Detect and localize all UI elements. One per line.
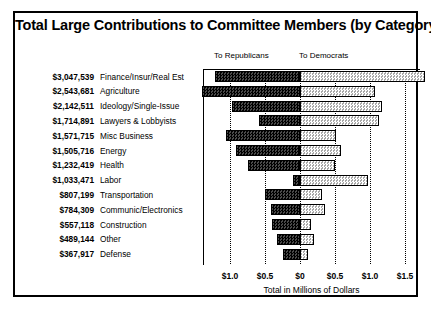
- bar-democrat: [300, 204, 325, 215]
- x-tick-label: $0.5: [327, 271, 344, 281]
- x-tick-label: $0: [295, 271, 304, 281]
- row-category-label: Agriculture: [100, 86, 140, 96]
- row-amount: $1,571,715: [28, 131, 94, 141]
- row-amount: $807,199: [28, 190, 94, 200]
- bar-republican: [265, 189, 300, 200]
- bar-republican: [202, 86, 300, 97]
- bar-democrat: [300, 175, 368, 186]
- x-tick-label: $1.0: [362, 271, 379, 281]
- row-amount: $1,714,891: [28, 116, 94, 126]
- gridline-4: [370, 69, 371, 265]
- row-amount: $1,033,471: [28, 175, 94, 185]
- bar-democrat: [300, 189, 322, 200]
- chart-frame: Total Large Contributions to Committee M…: [13, 11, 418, 297]
- bar-republican: [293, 175, 300, 186]
- bar-democrat: [300, 249, 308, 260]
- row-amount: $557,118: [28, 220, 94, 230]
- row-amount: $367,917: [28, 249, 94, 259]
- row-amount: $2,142,511: [28, 101, 94, 111]
- bar-democrat: [300, 71, 425, 82]
- bar-republican: [259, 115, 300, 126]
- bar-republican: [232, 101, 300, 112]
- plot-area: [190, 58, 420, 265]
- row-amount: $2,543,681: [28, 86, 94, 96]
- bar-democrat: [300, 115, 379, 126]
- bar-democrat: [300, 145, 341, 156]
- bar-republican: [283, 249, 301, 260]
- bar-republican: [271, 204, 300, 215]
- x-axis-title: Total in Millions of Dollars: [203, 285, 420, 295]
- row-amount: $784,309: [28, 205, 94, 215]
- row-amount: $1,505,716: [28, 146, 94, 156]
- row-category-label: Defense: [100, 249, 131, 259]
- row-category-label: Labor: [100, 175, 121, 185]
- row-category-label: Misc Business: [100, 131, 153, 141]
- row-category-label: Construction: [100, 220, 147, 230]
- bar-democrat: [300, 101, 382, 112]
- row-category-label: Energy: [100, 146, 126, 156]
- bar-democrat: [300, 160, 335, 171]
- row-category-label: Other: [100, 234, 121, 244]
- gridline-5: [405, 69, 406, 265]
- bar-republican: [236, 145, 300, 156]
- x-axis: $1.0$0.5$0$0.5$1.0$1.5 Total in Millions…: [190, 271, 425, 301]
- bar-democrat: [300, 219, 311, 230]
- row-category-label: Communic/Electronics: [100, 205, 183, 215]
- bar-republican: [226, 130, 300, 141]
- row-category-label: Lawyers & Lobbyists: [100, 116, 176, 126]
- bar-democrat: [300, 130, 336, 141]
- bar-republican: [248, 160, 300, 171]
- chart-title: Total Large Contributions to Committee M…: [15, 17, 416, 33]
- bar-democrat: [300, 234, 314, 245]
- row-category-label: Ideology/Single-Issue: [100, 101, 179, 111]
- row-category-label: Health: [100, 160, 124, 170]
- row-category-label: Finance/Insur/Real Est: [100, 72, 184, 82]
- bar-republican: [215, 71, 300, 82]
- bar-republican: [277, 234, 300, 245]
- gridline-3: [335, 69, 336, 265]
- row-category-label: Transportation: [100, 190, 153, 200]
- gridline-0: [230, 69, 231, 265]
- x-tick-label: $1.5: [397, 271, 414, 281]
- row-amount: $489,144: [28, 234, 94, 244]
- row-amount: $3,047,539: [28, 72, 94, 82]
- category-label-column: $3,047,539Finance/Insur/Real Est$2,543,6…: [28, 58, 198, 268]
- x-tick-label: $0.5: [257, 271, 274, 281]
- row-amount: $1,232,419: [28, 160, 94, 170]
- bar-republican: [272, 219, 300, 230]
- x-tick-label: $1.0: [222, 271, 239, 281]
- bar-democrat: [300, 86, 375, 97]
